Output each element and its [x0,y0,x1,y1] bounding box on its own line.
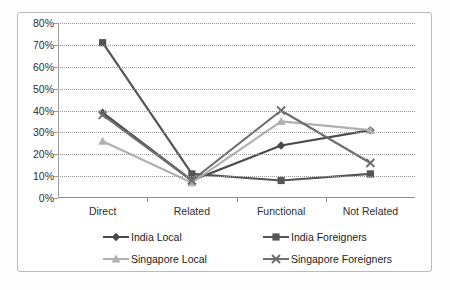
series-polyline [103,111,371,181]
y-axis-tick-label: 40% [20,106,54,116]
y-tick-mark [54,89,58,90]
y-axis-tick-label: 0% [20,193,54,203]
y-axis-tick-label: 30% [20,127,54,137]
series-line [99,107,375,185]
legend-item[interactable]: Singapore Foreigners [263,253,392,265]
data-point-marker-cross [366,159,374,167]
x-axis-category-label: Functional [257,205,305,217]
data-point-marker-triangle [98,137,107,145]
legend-marker-cross-icon [263,253,289,265]
gridline [58,67,415,68]
gridline [58,23,415,24]
y-tick-mark [54,111,58,112]
y-axis-tick-label: 80% [20,18,54,28]
legend-marker-diamond-icon [103,231,129,243]
legend-item[interactable]: Singapore Local [103,253,207,265]
y-tick-mark [54,45,58,46]
y-axis-tick-label: 20% [20,149,54,159]
x-axis-category-label: Direct [89,205,116,217]
gridline [58,154,415,155]
y-axis-tick-label: 60% [20,62,54,72]
x-axis-category-label: Related [174,205,210,217]
data-point-marker-diamond [112,233,120,241]
gridline [58,132,415,133]
legend-label: Singapore Local [131,253,207,265]
y-tick-mark [54,23,58,24]
gridline [58,176,415,177]
gridline [58,45,415,46]
y-axis: 0%10%20%30%40%50%60%70%80% [18,23,54,198]
x-tick-mark [237,198,238,202]
data-point-marker-diamond [277,141,285,149]
legend-marker-square-icon [263,231,289,243]
data-point-marker-triangle [112,255,121,263]
y-axis-tick-label: 70% [20,40,54,50]
legend-marker-triangle-icon [103,253,129,265]
series-polyline [103,121,371,182]
x-axis-category-label: Not Related [343,205,398,217]
y-tick-mark [54,198,58,199]
y-tick-mark [54,154,58,155]
data-point-marker-square [278,177,285,184]
legend-label: Singapore Foreigners [291,253,392,265]
legend-label: India Local [131,231,182,243]
x-tick-mark [147,198,148,202]
chart-frame: 0%10%20%30%40%50%60%70%80% DirectRelated… [17,12,432,272]
x-axis-labels: DirectRelatedFunctionalNot Related [58,205,415,223]
legend-item[interactable]: India Foreigners [263,231,367,243]
chart-screenshot: 0%10%20%30%40%50%60%70%80% DirectRelated… [0,0,450,290]
y-tick-mark [54,67,58,68]
legend-item[interactable]: India Local [103,231,182,243]
y-tick-mark [54,132,58,133]
y-axis-tick-label: 50% [20,84,54,94]
plot-inner [58,23,415,198]
x-tick-mark [326,198,327,202]
plot-area [58,23,415,198]
y-axis-tick-label: 10% [20,171,54,181]
legend-label: India Foreigners [291,231,367,243]
y-tick-mark [54,176,58,177]
gridline [58,89,415,90]
data-point-marker-square [272,233,279,240]
data-point-marker-cross [272,255,280,263]
chart-legend: India LocalIndia ForeignersSingapore Loc… [73,231,403,277]
gridline [58,111,415,112]
